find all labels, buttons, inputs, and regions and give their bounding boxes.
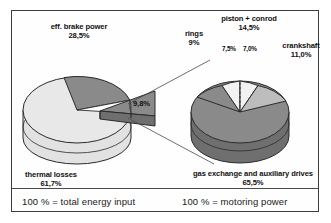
label-piston-subslice-right-value: 7,0% — [243, 45, 257, 52]
left-pie — [23, 76, 155, 164]
label-eff-brake-power: eff. brake power 28,5% — [41, 22, 117, 40]
label-gas-exchange-name: gas exchange and auxiliary drives — [193, 169, 313, 178]
label-piston-conrod: piston + conrod 14,5% — [212, 14, 286, 32]
caption-motoring-power: 100 % = motoring power — [182, 196, 287, 207]
label-rings: rings 9% — [180, 29, 208, 47]
label-eff-brake-power-name: eff. brake power — [51, 22, 108, 31]
label-thermal-losses-value: 61,7% — [12, 179, 90, 188]
label-exploded-wedge-value: 9,8% — [133, 99, 159, 108]
right-pie — [191, 81, 289, 163]
label-thermal-losses: thermal losses 61,7% — [12, 170, 90, 188]
caption-divider — [12, 188, 318, 189]
label-gas-exchange: gas exchange and auxiliary drives 65,5% — [183, 169, 323, 187]
label-thermal-losses-name: thermal losses — [25, 170, 77, 179]
label-crankshaft-name: crankshaft — [282, 41, 319, 50]
pie-chart-figure: eff. brake power 28,5% thermal losses 61… — [0, 0, 331, 223]
label-rings-name: rings — [185, 29, 203, 38]
label-piston-subslice-left-value: 7,5% — [222, 45, 236, 52]
label-eff-brake-power-value: 28,5% — [41, 31, 117, 40]
label-crankshaft: crankshaft 11,0% — [277, 41, 325, 59]
label-crankshaft-value: 11,0% — [277, 50, 325, 59]
label-piston-conrod-value: 14,5% — [212, 23, 286, 32]
label-piston-conrod-name: piston + conrod — [221, 14, 277, 23]
label-gas-exchange-value: 65,5% — [183, 178, 323, 187]
caption-total-energy-input: 100 % = total energy input — [22, 196, 135, 207]
label-rings-value: 9% — [180, 38, 208, 47]
